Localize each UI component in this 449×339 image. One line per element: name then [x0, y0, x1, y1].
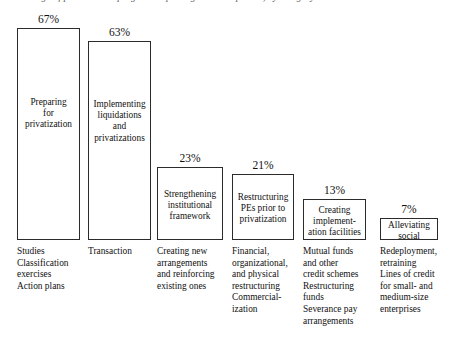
bar-caption: Financial, organizational, and physical … [232, 246, 304, 316]
bar-4: RestructuringPEs prior toprivatization [232, 174, 294, 240]
bar-1: Preparingforprivatization [17, 28, 80, 240]
bar-2: Implementingliquidationsandprivatization… [88, 41, 151, 240]
bar-caption: Creating new arrangements and reinforcin… [157, 246, 233, 292]
bar-value-label: 67% [17, 13, 80, 26]
bar-inner-label: Implementingliquidationsandprivatization… [89, 99, 150, 144]
bar-inner-label: Alleviatingsocial impacta [381, 220, 437, 240]
bar-caption: Studies Classification exercises Action … [17, 246, 90, 292]
bar-inner-label: Preparingforprivatization [18, 97, 79, 131]
bar-caption: Transaction [88, 246, 161, 258]
bar-inner-label: Strengtheninginstitutionalframework [158, 189, 222, 223]
bar-6: Alleviatingsocial impacta [380, 218, 438, 240]
bar-value-label: 63% [88, 26, 151, 39]
bar-value-label: 7% [380, 203, 438, 216]
bar-inner-label: RestructuringPEs prior toprivatization [233, 192, 293, 226]
bar-5: Creatingimplement-ation facilities [303, 199, 366, 240]
bar-caption: Mutual funds and other credit schemes Re… [303, 246, 376, 327]
bar-value-label: 21% [232, 159, 294, 172]
bar-value-label: 23% [157, 152, 223, 165]
privatization-components-bar-chart: Percentage of privatization programs rep… [0, 0, 449, 339]
bar-value-label: 13% [303, 184, 366, 197]
bar-3: Strengtheninginstitutionalframework [157, 167, 223, 240]
bar-inner-label: Creatingimplement-ation facilities [304, 205, 365, 239]
bar-caption: Redeployment, retraining Lines of credit… [380, 246, 448, 316]
chart-plot-area: 67%PreparingforprivatizationStudies Clas… [0, 0, 449, 339]
